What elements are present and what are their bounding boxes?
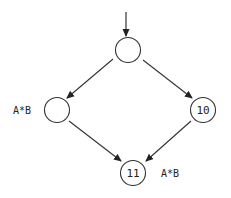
node-bottom: 11 — [121, 161, 146, 186]
node-bottom-label: 11 — [126, 167, 139, 180]
diagram-svg: 10 11 A*B A*B — [0, 0, 231, 198]
node-right: 10 — [191, 98, 216, 123]
annotation-bottom: A*B — [161, 168, 179, 179]
node-top — [116, 38, 141, 63]
edge-top-right — [143, 60, 192, 98]
edge-left-bottom — [69, 121, 121, 161]
annotation-left: A*B — [13, 105, 31, 116]
edge-top-left — [67, 59, 113, 98]
node-right-label: 10 — [196, 104, 209, 117]
node-left — [45, 98, 70, 123]
flow-graph-diagram: 10 11 A*B A*B — [0, 0, 231, 198]
edge-right-bottom — [146, 121, 191, 161]
